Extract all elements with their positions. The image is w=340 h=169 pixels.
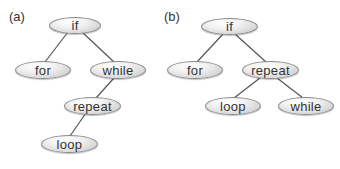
panel-b-node-loop: loop [205,97,261,115]
panel-a-node-if: if [49,17,101,34]
edge-a-if-for [45,32,68,62]
panel-a-label: (a) [9,10,25,23]
edge-b-if-repeat [235,34,266,62]
panel-a-node-while: while [90,61,146,79]
panel-b-node-repeat: repeat [242,61,299,79]
panel-a-node-repeat: repeat [64,97,121,115]
panel-a-node-for: for [15,61,71,79]
panel-b-node-for: for [167,61,223,79]
edge-b-if-for [197,34,223,62]
panel-b-label: (b) [164,10,180,23]
panel-b-node-while: while [278,97,334,115]
panel-a-node-loop: loop [41,135,98,153]
edge-b-repeat-loop [234,78,260,98]
edge-b-repeat-while [277,78,303,98]
edge-a-repeat-loop [70,113,86,136]
panel-b-node-if: if [201,18,258,35]
edge-a-if-while [82,32,114,62]
edge-a-while-repeat [96,78,114,98]
